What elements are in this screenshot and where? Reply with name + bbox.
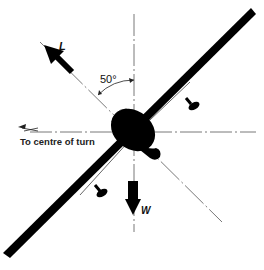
- wing-leading-edge-lower: [80, 140, 130, 195]
- weight-arrow: [125, 181, 141, 215]
- engine-right: [186, 98, 201, 112]
- bank-angle-label: 50°: [100, 73, 117, 85]
- engine-left: [95, 185, 109, 199]
- lift-arrow: [44, 45, 72, 72]
- angle-arrowhead-top: [129, 78, 134, 83]
- turn-direction-label: To centre of turn: [20, 136, 95, 147]
- banked-turn-diagram: L 50° W To centre of turn: [0, 0, 264, 270]
- wing-leading-edge: [150, 82, 190, 120]
- diagram-canvas: [0, 0, 264, 270]
- lift-label: L: [59, 40, 66, 52]
- turn-direction-arrow: [18, 124, 38, 131]
- weight-label: W: [141, 205, 150, 216]
- angle-arrowhead-bottom: [98, 90, 102, 95]
